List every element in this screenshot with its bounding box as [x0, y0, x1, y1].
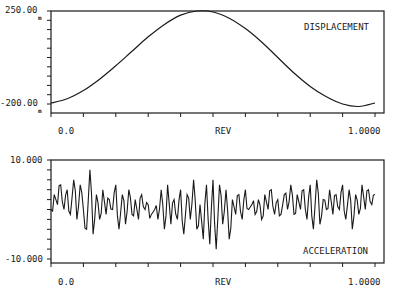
displacement-y-max-label: 250.00 [5, 5, 38, 15]
chart-canvas: 250.00 m -200.00 m DISPLACEMENT 0.0 REV … [0, 0, 396, 295]
acceleration-x-axis-label: REV [215, 277, 232, 287]
acceleration-title: ACCELERATION [303, 246, 368, 256]
displacement-title: DISPLACEMENT [304, 22, 370, 32]
acceleration-plot: 10.000 -10.000 ACCELERATION 0.0 REV 1.00… [5, 155, 384, 287]
displacement-y-min-label: -200.00 [0, 98, 38, 108]
displacement-x-axis-label: REV [215, 126, 232, 136]
acceleration-x-ticks [51, 263, 375, 267]
displacement-plot: 250.00 m -200.00 m DISPLACEMENT 0.0 REV … [0, 5, 384, 136]
displacement-y-max-unit: m [38, 14, 42, 21]
acceleration-x-end-label: 1.0000 [348, 277, 381, 287]
displacement-x-start-label: 0.0 [58, 126, 74, 136]
acceleration-y-max-label: 10.000 [10, 155, 43, 165]
acceleration-x-start-label: 0.0 [58, 277, 74, 287]
acceleration-y-min-label: -10.000 [5, 254, 43, 264]
acceleration-curve [51, 170, 375, 249]
displacement-x-end-label: 1.0000 [348, 126, 381, 136]
displacement-y-min-unit: m [38, 107, 42, 114]
